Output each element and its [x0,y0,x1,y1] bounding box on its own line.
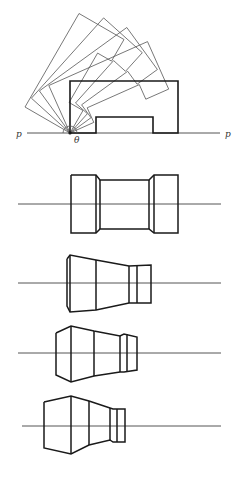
pivot-point [68,131,71,134]
part-outline [56,326,137,382]
rotated-profile-1 [25,14,124,134]
main-profile-outline [70,81,178,133]
rotated-profile-4 [49,42,169,133]
view-4 [22,396,221,454]
rotated-profile-2 [31,18,142,133]
rotated-profile-copies [25,14,169,134]
rotation-diagram: p p θ [16,14,231,146]
projected-views [18,175,221,454]
label-theta: θ [74,135,80,145]
label-left-p: p [16,129,22,139]
view-3 [18,326,221,382]
diagram-svg: p p θ [0,0,242,482]
part-outline [44,396,125,454]
figure-canvas: p p θ [0,0,242,482]
view-1 [18,175,221,233]
view-2 [18,255,221,312]
label-right-p: p [225,129,231,139]
